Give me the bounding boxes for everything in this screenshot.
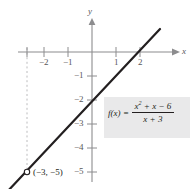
formula-denominator: x + 3 bbox=[140, 113, 165, 124]
x-tick-label--2: −2 bbox=[39, 57, 49, 67]
formula-lhs: f(x) bbox=[108, 108, 121, 118]
x-axis-label: x bbox=[182, 46, 186, 56]
x-tick-label-2: 2 bbox=[138, 57, 143, 67]
x-axis-arrowhead bbox=[172, 49, 180, 56]
y-tick-label--1: −1 bbox=[74, 70, 84, 80]
y-tick-label--4: −4 bbox=[74, 142, 84, 152]
formula-numerator-rest: + x − 6 bbox=[142, 101, 172, 111]
x-tick-label-1: 1 bbox=[114, 57, 119, 67]
formula-fraction: x2 + x − 6 x + 3 bbox=[132, 101, 175, 124]
x-tick-label--1: −1 bbox=[63, 57, 73, 67]
formula-numerator: x2 + x − 6 bbox=[132, 101, 175, 112]
hole-open-circle bbox=[24, 169, 29, 174]
graph-figure: −2 −1 1 2 −1 −2 −3 −4 −5 x y (−3, −5) f(… bbox=[0, 0, 196, 189]
plot-canvas bbox=[0, 0, 196, 189]
y-axis-arrowhead bbox=[89, 18, 96, 25]
hole-point-label: (−3, −5) bbox=[33, 167, 63, 177]
formula-equals: = bbox=[124, 108, 129, 118]
y-tick-label--3: −3 bbox=[74, 118, 84, 128]
y-axis-label: y bbox=[88, 6, 92, 16]
y-tick-label--2: −2 bbox=[74, 94, 84, 104]
y-tick-label--5: −5 bbox=[74, 166, 84, 176]
function-formula: f(x) = x2 + x − 6 x + 3 bbox=[108, 101, 174, 124]
